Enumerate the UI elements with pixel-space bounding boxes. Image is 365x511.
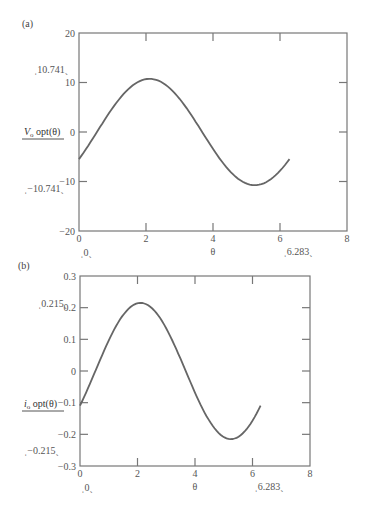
x-tick-label: 2 [135,468,140,479]
panel-a-plot: 0246820100−10−20Vo opt(θ)ˌ10.741ˏˌ−10.74… [22,28,350,259]
x-axis-label: θ [211,246,216,257]
y-tick-label: −20 [59,226,75,237]
y-tick-label: 0 [70,127,75,138]
y-tick-label: −0.2 [58,429,76,440]
plot-frame [79,33,347,231]
annotation-ymax: ˌ10.741ˏ [34,64,68,75]
x-tick-label: 4 [211,233,216,244]
y-tick-label: 20 [65,28,75,39]
annotation-ymin: ˌ−0.215ˏ [24,445,59,456]
y-tick-label: 0.3 [64,271,77,282]
x-axis-label: θ [193,481,198,492]
x-tick-label: 8 [345,233,350,244]
annotation-xmax: ˌ6.283ˏ [283,246,312,257]
panel-b-plot: 024680.30.20.10−0.1−0.2−0.3io opt(θ)ˌ0.2… [22,271,313,494]
x-tick-label: 6 [250,468,255,479]
y-axis-label: Vo opt(θ) [24,126,60,139]
annotation-xmin: ˌ0ˏ [80,247,92,258]
x-tick-label: 8 [308,468,313,479]
y-tick-label: −0.1 [58,397,76,408]
x-tick-label: 4 [193,468,198,479]
data-line [79,79,290,185]
x-tick-label: 2 [144,233,149,244]
annotation-ymin: ˌ−10.741ˏ [24,183,64,194]
annotation-ymax: ˌ0.215ˏ [38,298,67,309]
y-tick-label: −0.3 [58,461,76,472]
y-tick-label: 0 [71,366,76,377]
data-line [80,303,261,439]
x-tick-label: 0 [78,468,83,479]
chart-canvas: 0246820100−10−20Vo opt(θ)ˌ10.741ˏˌ−10.74… [0,0,365,511]
y-axis-label: io opt(θ) [24,398,57,411]
annotation-xmax: ˌ6.283ˏ [255,481,284,492]
y-tick-label: 10 [65,77,75,88]
y-tick-label: 0.1 [64,334,77,345]
x-tick-label: 6 [278,233,283,244]
x-tick-label: 0 [77,233,82,244]
plot-frame [80,276,310,466]
annotation-xmin: ˌ0ˏ [81,482,93,493]
